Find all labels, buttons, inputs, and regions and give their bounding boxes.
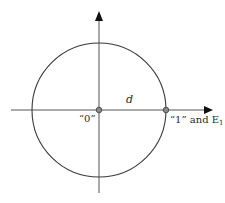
diagram-canvas [0, 0, 225, 203]
origin-point [96, 107, 102, 113]
distance-label: d [126, 94, 133, 105]
vertical-axis-arrow-icon [95, 11, 103, 21]
horizontal-axis-arrow-icon [204, 106, 213, 114]
origin-label: “0” [79, 114, 96, 124]
unit-point [163, 107, 169, 113]
unit-point-label: “1” and E1 [170, 115, 224, 127]
unit-point-label-text: “1” and E [170, 114, 219, 125]
unit-point-label-subscript: 1 [219, 119, 223, 127]
